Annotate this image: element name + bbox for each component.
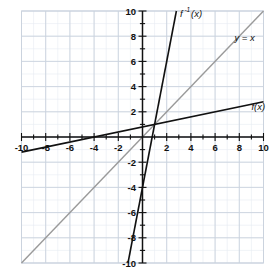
x-tick-label: 10 [258,142,269,153]
x-tick-label: 4 [188,142,194,153]
x-tick-label: -4 [90,142,99,153]
x-tick-label: -6 [66,142,74,153]
y-tick-label: 4 [131,81,137,92]
y-tick-label: 6 [131,56,136,67]
graph-figure: -10-8-6-4-2246810 108642-2-4-6-8-10 f(x)… [0,0,278,275]
curve-label-f-inverse-exponent: -1 [184,6,190,13]
y-tick-label: 8 [131,31,136,42]
x-tick-label: 2 [164,142,169,153]
y-tick-label: -8 [128,232,136,243]
curve-label-f-inverse-argument: (x) [191,8,202,19]
y-tick-label: -4 [128,182,137,193]
y-tick-label: -2 [128,157,136,168]
y-tick-label: 10 [125,6,136,17]
x-tick-label: 6 [212,142,217,153]
x-tick-label: -2 [114,142,122,153]
curve-label-y-equals-x: y = x [233,32,256,43]
x-tick-label: 8 [237,142,242,153]
x-tick-label: -10 [15,142,29,153]
y-tick-label: -10 [122,258,136,269]
y-tick-label: -6 [128,207,136,218]
x-tick-label: -8 [41,142,49,153]
curve-label-f: f(x) [251,101,265,112]
y-tick-label: 2 [131,106,136,117]
coordinate-plane: -10-8-6-4-2246810 108642-2-4-6-8-10 f(x)… [0,0,278,275]
